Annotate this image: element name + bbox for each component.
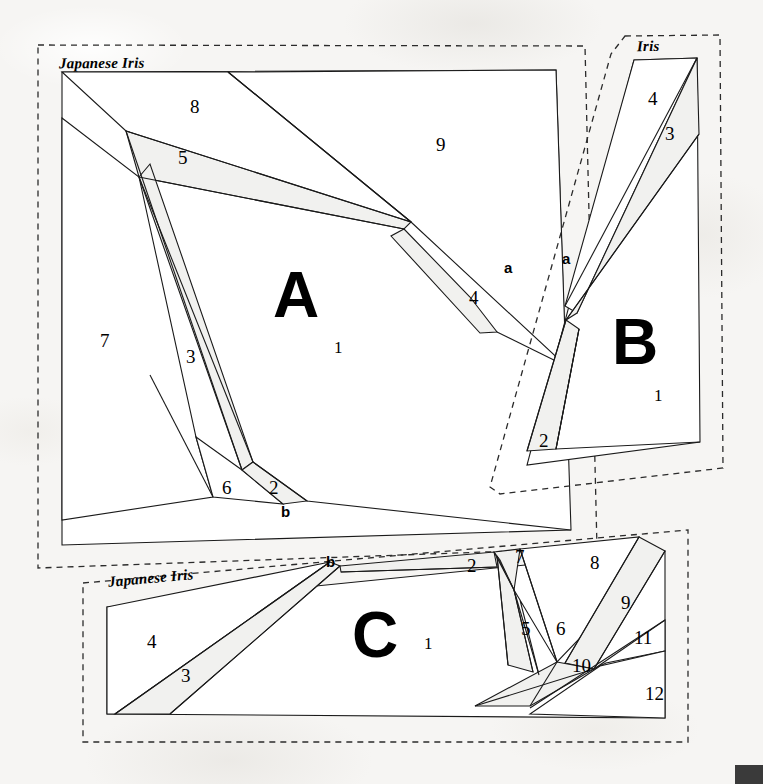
section-a-title: Japanese Iris [59, 55, 145, 73]
section-c-piece-label-6: 6 [556, 618, 566, 640]
section-c-piece-label-11: 11 [634, 627, 652, 649]
section-a-piece-label-4: 4 [469, 287, 479, 309]
section-a-piece-label-7: 7 [100, 330, 110, 352]
section-c-piece-label-10: 10 [572, 655, 591, 677]
seam-marker-a-right: a [504, 259, 512, 276]
section-a-piece-label-5: 5 [178, 147, 188, 169]
section-b-title: Iris [637, 38, 660, 55]
section-b-piece-label-4: 4 [648, 88, 658, 110]
section-a-piece-label-3: 3 [186, 346, 196, 368]
section-c-piece-label-8: 8 [590, 552, 600, 574]
section-c-piece-label-7: 7 [515, 546, 525, 568]
section-c-piece-label-2: 2 [467, 555, 477, 577]
seam-marker-a-bottom: b [281, 503, 290, 520]
section-a-piece-label-1: 1 [334, 338, 343, 358]
section-a-letter: A [273, 263, 318, 327]
section-b-piece-label-1: 1 [654, 386, 663, 406]
section-c-piece-label-5: 5 [521, 618, 531, 640]
section-b-piece-label-3: 3 [665, 123, 675, 145]
section-b-letter: B [612, 310, 657, 374]
section-a-piece-label-6: 6 [222, 477, 232, 499]
section-a-piece-label-2: 2 [269, 477, 279, 499]
section-c-piece-label-1: 1 [424, 634, 433, 654]
section-c-piece-label-4: 4 [147, 631, 157, 653]
section-a-piece-label-8: 8 [190, 96, 200, 118]
seam-marker-c-top: b [326, 553, 335, 570]
section-c-piece-label-3: 3 [181, 665, 191, 687]
seam-marker-b-left: a [562, 250, 570, 267]
section-c-piece-label-12: 12 [645, 683, 664, 705]
section-c-piece-label-9: 9 [621, 592, 631, 614]
section-c-letter: C [352, 603, 397, 667]
section-a-piece-label-9: 9 [436, 134, 446, 156]
section-b-piece-label-2: 2 [539, 430, 549, 452]
corner-color-swatch [735, 765, 763, 784]
